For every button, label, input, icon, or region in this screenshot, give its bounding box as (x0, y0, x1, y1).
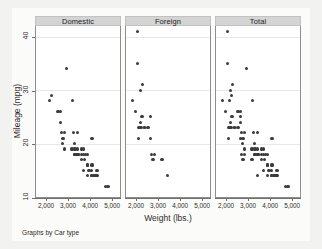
data-point (90, 174, 93, 177)
data-point (95, 169, 98, 172)
data-point (230, 94, 233, 97)
data-point (263, 158, 266, 161)
data-point (228, 99, 231, 102)
data-point (71, 99, 74, 102)
data-point (91, 163, 94, 166)
data-point (256, 131, 259, 134)
data-point (240, 131, 243, 134)
data-point (252, 131, 255, 134)
panel-header-label: Total (215, 16, 301, 26)
data-point (86, 174, 89, 177)
data-point (270, 174, 273, 177)
y-axis: 10203040 (16, 22, 32, 198)
data-point (226, 30, 229, 33)
data-point (262, 169, 265, 172)
x-tick-mark (68, 198, 69, 201)
data-point (59, 110, 62, 113)
data-point (243, 147, 246, 150)
gridline (216, 144, 300, 145)
data-point (82, 169, 85, 172)
data-point (260, 153, 263, 156)
x-tick-mark (180, 198, 181, 201)
data-point (50, 94, 53, 97)
gridline (36, 90, 120, 91)
data-point (153, 153, 156, 156)
data-point (286, 185, 289, 188)
data-point (256, 147, 259, 150)
data-point (140, 115, 143, 118)
x-tick-mark (90, 198, 91, 201)
data-point (257, 153, 260, 156)
data-point (136, 62, 139, 65)
data-point (60, 131, 63, 134)
data-point (250, 158, 253, 161)
y-tick-label: 10 (22, 190, 29, 204)
data-point (229, 121, 232, 124)
data-point (131, 99, 134, 102)
data-point (221, 99, 224, 102)
data-point (239, 115, 242, 118)
data-point (241, 158, 244, 161)
data-point (271, 137, 274, 140)
x-axis-line (35, 198, 121, 199)
data-point (266, 174, 269, 177)
x-tick-mark (46, 198, 47, 201)
data-point (151, 158, 154, 161)
x-tick-label: 5,000 (99, 202, 125, 209)
chart-figure: Mileage (mpg) 10203040 DomesticForeignTo… (0, 0, 322, 249)
data-point (94, 174, 97, 177)
data-point (91, 137, 94, 140)
data-point (231, 83, 234, 86)
data-point (271, 163, 274, 166)
data-point (137, 137, 140, 140)
data-point (251, 99, 254, 102)
data-point (63, 147, 66, 150)
data-point (56, 110, 59, 113)
y-tick-label: 30 (22, 82, 29, 96)
data-point (134, 110, 137, 113)
panel-header-label: Domestic (35, 16, 121, 26)
data-point (139, 121, 142, 124)
x-tick-mark (136, 198, 137, 201)
data-point (76, 131, 79, 134)
data-point (224, 110, 227, 113)
x-tick-mark (112, 198, 113, 201)
data-point (149, 115, 152, 118)
data-point (239, 110, 242, 113)
data-point (106, 185, 109, 188)
data-point (236, 110, 239, 113)
data-point (253, 142, 256, 145)
data-point (266, 163, 269, 166)
data-point (226, 62, 229, 65)
data-point (241, 137, 244, 140)
x-tick-label: 5,000 (189, 202, 215, 209)
data-point (63, 131, 66, 134)
data-point (229, 89, 232, 92)
data-point (73, 147, 76, 150)
panel-domestic: Domestic (35, 16, 121, 198)
data-point (72, 131, 75, 134)
x-axis-line (215, 198, 301, 199)
data-point (275, 169, 278, 172)
data-point (61, 137, 64, 140)
chart-note: Graphs by Car type (22, 229, 79, 236)
data-point (166, 174, 169, 177)
data-point (86, 163, 89, 166)
gridline (36, 37, 120, 38)
data-point (75, 153, 78, 156)
gridline (216, 37, 300, 38)
data-point (80, 153, 83, 156)
data-point (274, 174, 277, 177)
x-axis-domestic: 2,0003,0004,0005,000 (35, 198, 121, 214)
x-tick-mark (292, 198, 293, 201)
data-point (83, 158, 86, 161)
data-point (256, 174, 259, 177)
data-point (245, 67, 248, 70)
data-point (141, 83, 144, 86)
gridline (126, 144, 210, 145)
y-tick-label: 40 (22, 28, 29, 42)
panel-foreign: Foreign (125, 16, 211, 198)
data-point (160, 158, 163, 161)
data-point (227, 137, 230, 140)
x-axis-title: Weight (lbs.) (35, 213, 301, 223)
